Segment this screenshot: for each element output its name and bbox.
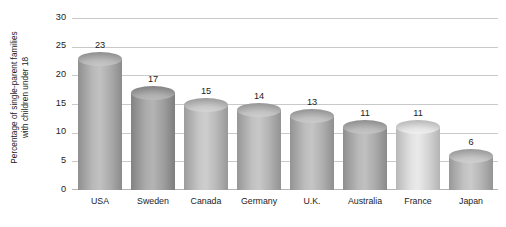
y-tick-label-10: 10 — [44, 126, 66, 136]
bar-body — [184, 105, 228, 191]
bar-top-ellipse — [449, 149, 493, 163]
x-tick-label-japan: Japan — [440, 196, 502, 207]
plot-area: 231715141311116 — [72, 18, 498, 190]
bar-body — [396, 127, 440, 190]
y-tick-label-5: 5 — [44, 155, 66, 165]
bar-top-ellipse — [131, 86, 175, 100]
bar-body — [237, 110, 281, 190]
bar-body — [343, 127, 387, 190]
bar-canada: 15 — [184, 98, 228, 191]
y-tick-label-20: 20 — [44, 69, 66, 79]
bar-top-ellipse — [290, 109, 334, 123]
y-tick-label-0: 0 — [44, 184, 66, 194]
bar-u-k: 13 — [290, 109, 334, 190]
bar-top-ellipse — [184, 98, 228, 112]
bar-body — [290, 116, 334, 190]
bar-top-ellipse — [78, 52, 122, 66]
bar-body — [131, 93, 175, 190]
bar-value-label: 6 — [435, 137, 506, 147]
y-axis-title: Percentage of single-parent families wit… — [0, 0, 40, 195]
bar-sweden: 17 — [131, 86, 175, 190]
bar-japan: 6 — [449, 149, 493, 190]
gridline-30 — [72, 18, 498, 19]
bar-germany: 14 — [237, 103, 281, 190]
bar-value-label: 11 — [382, 108, 454, 118]
y-axis-title-line-2: with children under 18 — [20, 31, 31, 163]
bar-body — [78, 59, 122, 190]
bar-australia: 11 — [343, 120, 387, 190]
bar-chart: Percentage of single-parent families wit… — [0, 0, 506, 227]
y-axis-title-line-1: Percentage of single-parent families — [10, 31, 21, 163]
y-tick-label-30: 30 — [44, 12, 66, 22]
bar-usa: 23 — [78, 52, 122, 190]
y-tick-label-15: 15 — [44, 98, 66, 108]
bar-value-label: 13 — [276, 97, 348, 107]
bar-france: 11 — [396, 120, 440, 190]
bar-value-label: 23 — [64, 40, 136, 50]
bar-value-label: 17 — [117, 74, 189, 84]
y-tick-label-25: 25 — [44, 40, 66, 50]
